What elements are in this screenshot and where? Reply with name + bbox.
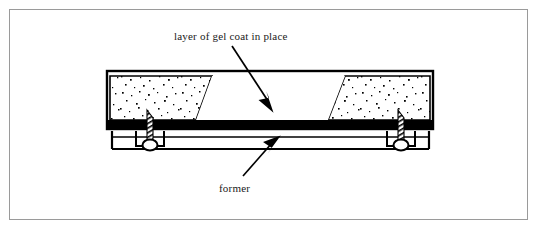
gel-coat-cavity	[196, 76, 345, 120]
label-former: former	[219, 182, 250, 194]
fastener-right-head	[394, 140, 409, 151]
fastener-left-head	[143, 140, 158, 151]
stipple-region-left	[110, 76, 212, 120]
figure-container: layer of gel coat in place former	[0, 0, 539, 231]
stipple-region-right	[328, 76, 430, 120]
label-gel-coat: layer of gel coat in place	[174, 30, 288, 42]
leader-arrow-former	[243, 132, 281, 176]
gel-coat-dark-band	[107, 120, 433, 129]
